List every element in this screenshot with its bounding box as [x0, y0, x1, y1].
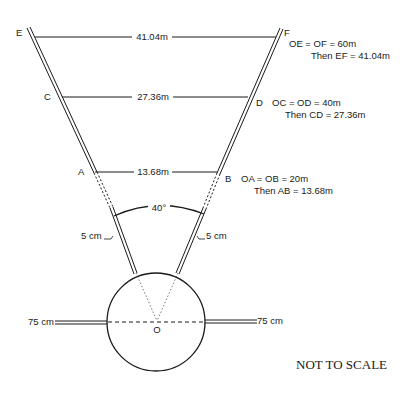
right-ray	[176, 28, 283, 274]
point-E-label: E	[16, 27, 22, 38]
point-A-label: A	[78, 166, 85, 177]
center-O-label: O	[153, 324, 160, 335]
right-horizontal-arm	[205, 320, 257, 323]
point-B-label: B	[225, 173, 231, 184]
left-width-label: 5 cm	[81, 230, 102, 241]
right-width-leader	[197, 236, 205, 239]
CD-length-label: 27.36m	[137, 91, 169, 102]
point-F-label: F	[284, 27, 290, 38]
left-horizontal-arm	[55, 321, 107, 324]
EF-annotation-line1: OE = OF = 60m	[289, 38, 356, 49]
AB-annotation-line1: OA = OB = 20m	[241, 173, 308, 184]
right-width-label: 5 cm	[206, 230, 227, 241]
angle-measuring-instrument-diagram: 41.04m 27.36m 13.68m E F C D A B OE = OF…	[0, 0, 414, 393]
right-arm-length-label: 75 cm	[257, 315, 283, 326]
EF-length-label: 41.04m	[136, 31, 168, 42]
left-arm-length-label: 75 cm	[28, 316, 54, 327]
point-D-label: D	[256, 97, 263, 108]
AB-annotation-line2: Then AB = 13.68m	[254, 185, 333, 196]
not-to-scale-note: NOT TO SCALE	[296, 357, 387, 372]
left-width-leader	[104, 236, 113, 239]
protractor-circle	[107, 273, 205, 371]
center-rays	[136, 273, 178, 321]
EF-annotation-line2: Then EF = 41.04m	[311, 50, 390, 61]
CD-annotation-line1: OC = OD = 40m	[272, 97, 341, 108]
angle-label: 40°	[152, 202, 167, 213]
point-C-label: C	[44, 91, 51, 102]
AB-length-label: 13.68m	[137, 166, 169, 177]
CD-annotation-line2: Then CD = 27.36m	[285, 109, 366, 120]
